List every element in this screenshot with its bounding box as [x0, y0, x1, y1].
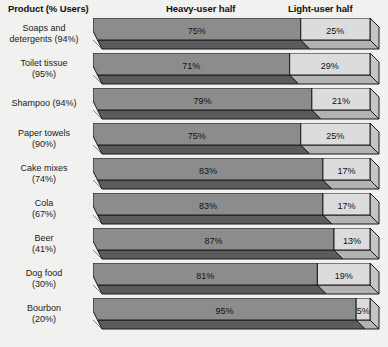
- heavy-user-percent-label: 75%: [93, 26, 301, 36]
- stacked-bar: 75%25%: [93, 123, 383, 158]
- heavy-bottom-face: [93, 110, 321, 119]
- light-bottom-face: [301, 40, 379, 49]
- category-label: Cake mixes (74%): [0, 158, 88, 189]
- chart-row: Cola (67%)83%17%: [0, 193, 388, 228]
- category-label: Paper towels (90%): [0, 123, 88, 154]
- heavy-bottom-face: [93, 145, 310, 154]
- stacked-bar: 71%29%: [93, 53, 383, 88]
- light-user-percent-label: 25%: [301, 131, 370, 141]
- light-bottom-face: [301, 145, 379, 154]
- light-bottom-face: [312, 110, 379, 119]
- heavy-user-percent-label: 81%: [93, 271, 317, 281]
- heavy-bottom-face: [93, 285, 326, 294]
- light-user-percent-label: 13%: [334, 236, 370, 246]
- heavy-bottom-face: [93, 215, 332, 224]
- stacked-bar: 95%5%: [93, 298, 383, 333]
- column-header-light-user-half: Light-user half: [288, 3, 352, 14]
- volume-segmentation-chart: Product (% Users) Heavy-user half Light-…: [0, 0, 388, 347]
- stacked-bar: 79%21%: [93, 88, 383, 123]
- chart-row: Toilet tissue (95%)71%29%: [0, 53, 388, 88]
- light-bottom-face: [323, 215, 379, 224]
- category-label: Bourbon (20%): [0, 298, 88, 329]
- heavy-user-percent-label: 75%: [93, 131, 301, 141]
- stacked-bar: 83%17%: [93, 158, 383, 193]
- heavy-user-percent-label: 95%: [93, 306, 356, 316]
- heavy-user-percent-label: 87%: [93, 236, 334, 246]
- category-label: Soaps and detergents (94%): [0, 18, 88, 49]
- chart-row: Bourbon (20%)95%5%: [0, 298, 388, 333]
- light-bottom-face: [317, 285, 379, 294]
- light-user-percent-label: 21%: [312, 96, 370, 106]
- category-label: Cola (67%): [0, 193, 88, 224]
- chart-row: Beer (41%)87%13%: [0, 228, 388, 263]
- light-user-percent-label: 5%: [356, 306, 370, 316]
- heavy-user-percent-label: 83%: [93, 201, 323, 211]
- light-user-percent-label: 25%: [301, 26, 370, 36]
- category-label: Shampoo (94%): [0, 88, 88, 119]
- column-header-heavy-user-half: Heavy-user half: [166, 3, 235, 14]
- chart-row: Soaps and detergents (94%)75%25%: [0, 18, 388, 53]
- category-label: Dog food (30%): [0, 263, 88, 294]
- light-bottom-face: [323, 180, 379, 189]
- chart-row: Shampoo (94%)79%21%: [0, 88, 388, 123]
- heavy-bottom-face: [93, 180, 332, 189]
- light-user-percent-label: 17%: [323, 166, 370, 176]
- heavy-bottom-face: [93, 250, 343, 259]
- light-bottom-face: [290, 75, 379, 84]
- heavy-bottom-face: [93, 320, 365, 329]
- light-user-percent-label: 29%: [290, 61, 370, 71]
- stacked-bar: 83%17%: [93, 193, 383, 228]
- chart-row: Cake mixes (74%)83%17%: [0, 158, 388, 193]
- heavy-bottom-face: [93, 75, 299, 84]
- column-header-product: Product (% Users): [8, 3, 89, 14]
- light-user-percent-label: 19%: [317, 271, 370, 281]
- chart-row: Dog food (30%)81%19%: [0, 263, 388, 298]
- heavy-user-percent-label: 79%: [93, 96, 312, 106]
- light-user-percent-label: 17%: [323, 201, 370, 211]
- category-label: Beer (41%): [0, 228, 88, 259]
- chart-row: Paper towels (90%)75%25%: [0, 123, 388, 158]
- heavy-bottom-face: [93, 40, 310, 49]
- stacked-bar: 81%19%: [93, 263, 383, 298]
- stacked-bar: 75%25%: [93, 18, 383, 53]
- heavy-user-percent-label: 71%: [93, 61, 290, 71]
- heavy-user-percent-label: 83%: [93, 166, 323, 176]
- stacked-bar: 87%13%: [93, 228, 383, 263]
- category-label: Toilet tissue (95%): [0, 53, 88, 84]
